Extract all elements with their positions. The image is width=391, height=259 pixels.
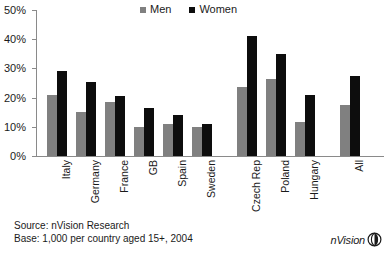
y-axis-tick-label: 40% xyxy=(4,33,26,45)
x-axis-category-label: Sweden xyxy=(206,160,216,198)
bar-women xyxy=(173,115,183,156)
bar-women xyxy=(305,95,315,156)
bar-women xyxy=(57,71,67,156)
y-axis-label-wrap: 40% xyxy=(32,39,33,40)
x-axis-category-label: Spain xyxy=(177,160,187,187)
bar-women xyxy=(276,54,286,156)
bar-men xyxy=(76,112,86,156)
y-axis-tick-label: 10% xyxy=(4,121,26,133)
x-axis-category-label: Czech Rep xyxy=(251,160,261,212)
bar-men xyxy=(134,127,144,156)
bar-men xyxy=(295,122,305,156)
bar-women xyxy=(86,82,96,156)
chart-container: Men Women 0%10%20%30%40%50% ItalyGermany… xyxy=(0,0,391,259)
bar-women xyxy=(202,124,212,156)
x-axis-category-label: France xyxy=(119,160,129,193)
y-axis-tick-label: 20% xyxy=(4,92,26,104)
x-axis-category-label: GB xyxy=(148,160,158,175)
bar-men xyxy=(192,127,202,156)
y-axis-label-wrap: 30% xyxy=(32,68,33,69)
bar-men xyxy=(105,102,115,156)
x-axis-category-label: Hungary xyxy=(309,160,319,200)
logo-text: nVision xyxy=(331,234,365,246)
y-axis-label-wrap: 10% xyxy=(32,127,33,128)
x-axis-category-label: All xyxy=(354,160,364,172)
y-axis-label-wrap: 20% xyxy=(32,98,33,99)
x-axis-category-label: Germany xyxy=(90,160,100,203)
y-axis-label-wrap: 0% xyxy=(32,156,33,157)
nvision-logo: nVision xyxy=(331,232,382,247)
y-axis-tick-label: 0% xyxy=(10,150,26,162)
x-axis-category-label: Poland xyxy=(280,160,290,193)
bar-men xyxy=(237,87,247,156)
bar-men xyxy=(163,124,173,156)
bar-women xyxy=(247,36,257,156)
bar-women xyxy=(350,76,360,156)
bar-men xyxy=(266,79,276,156)
x-axis-line xyxy=(36,156,384,157)
x-axis-category-labels: ItalyGermanyFranceGBSpainSwedenCzech Rep… xyxy=(37,160,384,220)
y-axis-label-wrap: 50% xyxy=(32,10,33,11)
plot-area: 0%10%20%30%40%50% xyxy=(36,10,384,156)
bar-women xyxy=(144,108,154,156)
y-axis-tick-label: 30% xyxy=(4,62,26,74)
footer-base-line: Base: 1,000 per country aged 15+, 2004 xyxy=(14,232,193,245)
bar-men xyxy=(340,105,350,156)
footer-source-line: Source: nVision Research xyxy=(14,219,193,232)
bars-layer xyxy=(37,10,384,156)
x-axis-category-label: Italy xyxy=(61,160,71,179)
chart-footer: Source: nVision Research Base: 1,000 per… xyxy=(14,219,193,245)
bar-women xyxy=(115,96,125,156)
bar-men xyxy=(47,95,57,156)
y-axis-tick-label: 50% xyxy=(4,4,26,16)
nvision-leaf-icon xyxy=(367,232,382,247)
